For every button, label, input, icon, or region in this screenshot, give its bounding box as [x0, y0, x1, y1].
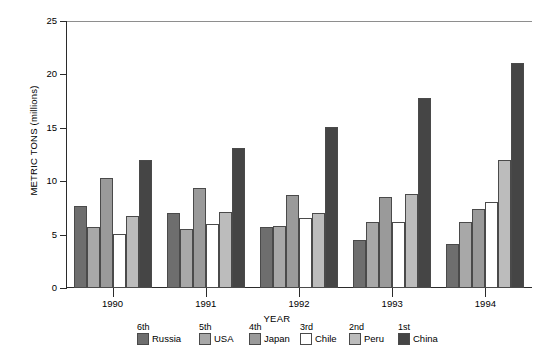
bar-usa-1992	[273, 226, 286, 288]
y-axis-tick-label: 5	[17, 229, 57, 240]
bar-peru-1992	[312, 213, 325, 288]
legend-series-label: Russia	[152, 333, 181, 345]
y-axis-tick-label: 10	[17, 175, 57, 186]
bar-groups	[66, 21, 532, 288]
bar-peru-1994	[498, 160, 511, 288]
bar-russia-1994	[446, 244, 459, 288]
bar-japan-1994	[472, 209, 485, 288]
y-axis-tick-label: 0	[17, 282, 57, 293]
bar-group-1993	[353, 21, 431, 288]
bar-usa-1994	[459, 222, 472, 288]
x-axis-tick	[485, 288, 486, 297]
bar-group-1990	[74, 21, 152, 288]
bar-russia-1993	[353, 240, 366, 288]
bar-peru-1993	[405, 194, 418, 288]
bar-chile-1991	[206, 224, 219, 288]
bar-chile-1994	[485, 202, 498, 289]
bar-russia-1990	[74, 206, 87, 288]
bar-chile-1990	[113, 234, 126, 288]
bar-russia-1992	[260, 227, 273, 288]
bar-chile-1993	[392, 222, 405, 288]
x-axis-tick-label: 1992	[269, 298, 329, 309]
bar-japan-1992	[286, 195, 299, 288]
bar-china-1993	[418, 98, 431, 288]
legend-swatch-peru	[349, 333, 361, 345]
x-axis-tick-label: 1993	[362, 298, 422, 309]
bar-chile-1992	[299, 218, 312, 288]
bar-japan-1991	[193, 188, 206, 288]
chart-legend: 6thRussia5thUSA4thJapan3rdChile2ndPeru1s…	[0, 322, 554, 356]
bar-usa-1993	[366, 222, 379, 288]
x-axis-tick-label: 1990	[83, 298, 143, 309]
bar-group-1994	[446, 21, 524, 288]
legend-swatch-china	[398, 333, 410, 345]
bar-china-1992	[325, 127, 338, 288]
y-axis-tick-label: 20	[17, 68, 57, 79]
x-axis-tick-label: 1991	[176, 298, 236, 309]
legend-series-label: Japan	[264, 333, 290, 345]
y-axis-tick-label: 25	[17, 15, 57, 26]
bar-japan-1993	[379, 197, 392, 288]
bar-china-1990	[139, 160, 152, 288]
y-axis-tick-label: 15	[17, 122, 57, 133]
bar-usa-1990	[87, 227, 100, 288]
legend-series-label: Chile	[315, 333, 337, 345]
x-axis-tick	[206, 288, 207, 297]
legend-series-label: China	[413, 333, 438, 345]
y-axis-tick	[60, 288, 67, 289]
legend-swatch-usa	[199, 333, 211, 345]
bar-china-1994	[511, 63, 524, 288]
bar-peru-1991	[219, 212, 232, 288]
legend-series-label: USA	[214, 333, 234, 345]
bar-group-1991	[167, 21, 245, 288]
bar-chart: METRIC TONS (millions) 0510152025 199019…	[0, 0, 554, 359]
bar-japan-1990	[100, 178, 113, 288]
legend-series-label: Peru	[364, 333, 384, 345]
x-axis-tick	[392, 288, 393, 297]
bar-peru-1990	[126, 216, 139, 288]
bar-russia-1991	[167, 213, 180, 288]
bar-group-1992	[260, 21, 338, 288]
bar-usa-1991	[180, 229, 193, 288]
x-axis-tick	[299, 288, 300, 297]
legend-swatch-japan	[249, 333, 261, 345]
legend-swatch-chile	[300, 333, 312, 345]
x-axis-tick-label: 1994	[455, 298, 515, 309]
legend-swatch-russia	[137, 333, 149, 345]
bar-china-1991	[232, 148, 245, 288]
x-axis-tick	[113, 288, 114, 297]
